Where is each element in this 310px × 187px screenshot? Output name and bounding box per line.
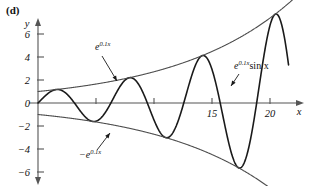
x-axis-ticks: 1520 xyxy=(96,98,276,119)
x-tick-label: 20 xyxy=(265,108,276,119)
lower-envelope-label-arrowhead xyxy=(105,133,110,138)
lower-envelope-label-base: −e xyxy=(79,149,91,160)
lower-envelope-label: −e0.1x xyxy=(79,148,101,160)
main-curve-label: e0.1xsin x xyxy=(234,59,269,71)
y-tick-label: 4 xyxy=(25,52,31,63)
curve-main xyxy=(38,14,289,168)
axes xyxy=(29,18,304,185)
y-tick-label: 0 xyxy=(25,98,31,109)
y-tick-label: −4 xyxy=(18,144,31,155)
y-axis-arrowhead-bottom xyxy=(35,177,41,185)
y-tick-label: −2 xyxy=(18,121,31,132)
curve-group xyxy=(38,0,293,186)
x-axis-label: x xyxy=(296,106,302,117)
curve-lower-envelope xyxy=(38,115,293,187)
upper-envelope-label-exponent: 0.1x xyxy=(99,40,110,47)
main-curve-label-arrowhead xyxy=(231,81,236,86)
y-tick-label: 6 xyxy=(25,29,31,40)
main-curve-label-exponent: 0.1x xyxy=(238,59,249,66)
main-curve-label-suffix: sin x xyxy=(249,60,268,71)
x-tick-label: 15 xyxy=(207,108,218,119)
annotation-group: e0.1xe0.1xsin x−e0.1x xyxy=(79,40,269,160)
damped-sine-chart: −6−4−20246 1520 y x e0.1xe0.1xsin x−e0.1… xyxy=(0,0,310,186)
curve-upper-envelope xyxy=(38,0,293,92)
y-axis-arrowhead-top xyxy=(35,18,41,26)
upper-envelope-label: e0.1x xyxy=(95,40,111,52)
y-tick-label: 2 xyxy=(25,75,31,86)
y-axis-label: y xyxy=(24,18,30,29)
y-tick-label: −6 xyxy=(18,167,31,178)
lower-envelope-label-exponent: 0.1x xyxy=(90,148,101,155)
